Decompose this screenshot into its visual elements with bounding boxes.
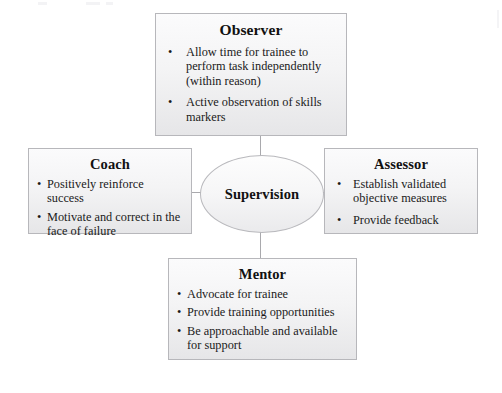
bullet-glyph-icon: • xyxy=(37,210,41,225)
bullet-glyph-icon: • xyxy=(177,305,181,320)
list-item: • Establish validated objective measures xyxy=(333,177,469,206)
list-item: • Allow time for trainee to perform task… xyxy=(164,45,338,89)
list-item-text: Positively reinforce success xyxy=(47,177,144,206)
node-mentor[interactable]: Mentor • Advocate for trainee • Provide … xyxy=(168,258,357,360)
connector-mentor-to-center xyxy=(260,230,261,259)
list-item: • Be approachable and available for supp… xyxy=(177,324,348,353)
node-coach[interactable]: Coach • Positively reinforce success • M… xyxy=(28,148,192,234)
node-observer[interactable]: Observer • Allow time for trainee to per… xyxy=(155,13,347,136)
list-item-text: Active observation of skills markers xyxy=(186,95,322,124)
node-coach-title: Coach xyxy=(37,156,183,173)
list-item-text: Allow time for trainee to perform task i… xyxy=(186,45,321,88)
list-item: • Motivate and correct in the face of fa… xyxy=(37,210,183,239)
diagram-canvas: Observer • Allow time for trainee to per… xyxy=(0,0,502,393)
list-item: • Advocate for trainee xyxy=(177,287,348,302)
connector-observer-to-center xyxy=(260,136,261,156)
bullet-glyph-icon: • xyxy=(177,324,181,339)
list-item: • Provide training opportunities xyxy=(177,305,348,320)
bullet-glyph-icon: • xyxy=(168,95,172,110)
list-item-text: Motivate and correct in the face of fail… xyxy=(47,210,180,239)
node-mentor-title: Mentor xyxy=(177,266,348,283)
bullet-glyph-icon: • xyxy=(337,177,341,192)
bullet-glyph-icon: • xyxy=(37,177,41,192)
list-item-text: Advocate for trainee xyxy=(187,287,288,301)
list-item: • Positively reinforce success xyxy=(37,177,183,206)
list-item: • Provide feedback xyxy=(333,213,469,228)
node-coach-bullets: • Positively reinforce success • Motivat… xyxy=(37,177,183,239)
list-item: • Active observation of skills markers xyxy=(164,95,338,124)
node-assessor-title: Assessor xyxy=(333,156,469,173)
scan-artifact xyxy=(106,2,113,5)
list-item-text: Provide training opportunities xyxy=(187,305,335,319)
bullet-glyph-icon: • xyxy=(168,45,172,60)
bullet-glyph-icon: • xyxy=(337,213,341,228)
list-item-text: Be approachable and available for suppor… xyxy=(187,324,338,353)
list-item-text: Establish validated objective measures xyxy=(353,177,447,206)
node-observer-title: Observer xyxy=(164,21,338,39)
center-node-label: Supervision xyxy=(225,186,299,203)
node-observer-bullets: • Allow time for trainee to perform task… xyxy=(164,45,338,125)
scan-artifact xyxy=(86,2,100,5)
center-node-supervision[interactable]: Supervision xyxy=(200,155,324,233)
bullet-glyph-icon: • xyxy=(177,287,181,302)
node-assessor[interactable]: Assessor • Establish validated objective… xyxy=(324,148,478,234)
node-mentor-bullets: • Advocate for trainee • Provide trainin… xyxy=(177,287,348,353)
scan-artifact xyxy=(38,2,47,5)
scan-artifact xyxy=(497,10,499,28)
node-assessor-bullets: • Establish validated objective measures… xyxy=(333,177,469,228)
list-item-text: Provide feedback xyxy=(353,213,439,227)
